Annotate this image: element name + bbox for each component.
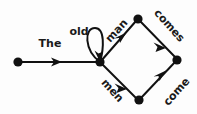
lattice-canvas: The old man men comes come: [0, 0, 197, 114]
edge-label-come: come: [161, 75, 193, 108]
edge-label-the: The: [39, 37, 62, 50]
edge-come-arrowhead: [154, 71, 167, 82]
end-node: [172, 55, 181, 64]
edge-label-men: men: [99, 76, 127, 105]
start-node: [13, 57, 22, 66]
center-node: [95, 57, 104, 66]
edge-old-group: [87, 28, 103, 62]
top-node: [133, 14, 142, 23]
word-lattice-diagram: The old man men comes come: [0, 0, 197, 114]
edge-comes-arrowhead: [154, 43, 167, 53]
edge-label-old: old: [69, 25, 88, 38]
bottom-node: [134, 95, 143, 104]
edge-the-group: [18, 57, 98, 66]
